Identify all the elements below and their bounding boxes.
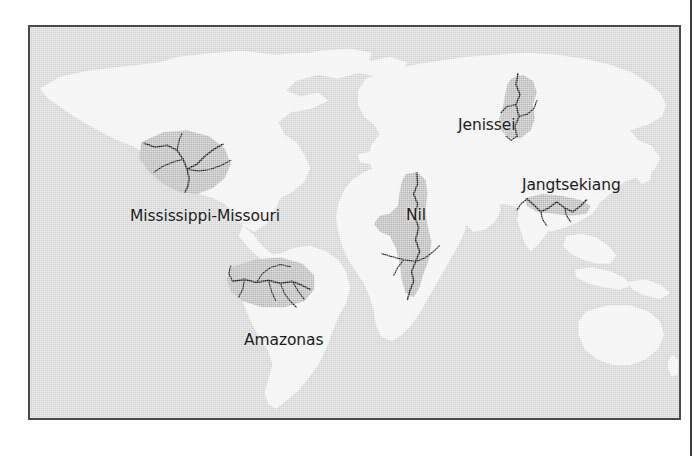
river-label-jangtsekiang: Jangtsekiang — [522, 178, 621, 194]
river-label-amazonas: Amazonas — [244, 333, 323, 349]
land-india — [517, 208, 551, 252]
world-map-graphic — [30, 27, 679, 420]
land-new-zealand — [668, 355, 678, 377]
world-map-panel: Mississippi-Missouri Amazonas Nil Jeniss… — [28, 25, 681, 420]
land-new-guinea — [628, 279, 670, 299]
river-label-nil: Nil — [406, 208, 426, 224]
land-australia — [579, 305, 664, 365]
landmasses — [40, 49, 678, 409]
river-label-jenissei: Jenissei — [458, 118, 515, 134]
land-indonesia — [575, 268, 631, 290]
river-label-mississippi-missouri: Mississippi-Missouri — [130, 209, 280, 225]
land-southeast-asia — [563, 234, 617, 264]
basin-amazonas — [227, 258, 314, 308]
frame-mask-bottom — [0, 456, 694, 460]
